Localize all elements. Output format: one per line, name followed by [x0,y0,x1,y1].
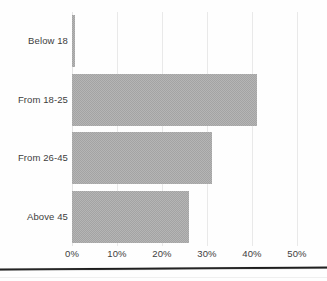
bar-row [72,191,297,243]
x-tick-label: 10% [107,248,126,259]
y-tick-label: From 26-45 [4,152,68,163]
x-tick-label: 40% [242,248,261,259]
bar-row [72,74,297,126]
bar-above-45 [72,191,189,243]
bar-from-18-25 [72,74,257,126]
x-tick-label: 30% [197,248,216,259]
x-tick-label: 50% [287,248,306,259]
gridline-50 [297,12,298,246]
y-tick-label: Below 18 [4,35,68,46]
bar-from-26-45 [72,132,212,184]
bar-series [72,12,297,246]
plot-area [72,12,297,246]
bar-chart: Below 18From 18-25From 26-45Above 45 0%1… [0,0,327,281]
bar-row [72,15,297,67]
x-axis-labels: 0%10%20%30%40%50% [72,248,297,264]
bar-row [72,132,297,184]
y-tick-label: From 18-25 [4,94,68,105]
page-rule [0,266,327,271]
y-tick-label: Above 45 [4,211,68,222]
y-axis-labels: Below 18From 18-25From 26-45Above 45 [0,12,68,246]
x-tick-label: 20% [152,248,171,259]
bar-below-18 [72,15,75,67]
x-tick-label: 0% [65,248,79,259]
page-rule-secondary [0,277,327,278]
